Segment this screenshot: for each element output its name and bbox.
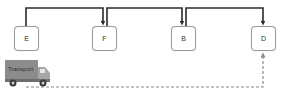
node-d-label: D bbox=[261, 35, 266, 42]
truck-icon bbox=[5, 60, 50, 87]
edge-f-to-b bbox=[107, 8, 182, 26]
edge-b-to-d bbox=[186, 8, 263, 26]
truck-label: Transport bbox=[8, 66, 33, 72]
node-f-label: F bbox=[102, 35, 106, 42]
node-d[interactable]: D bbox=[251, 26, 276, 51]
flow-diagram: E F B D Transport bbox=[0, 0, 283, 94]
node-e[interactable]: E bbox=[14, 26, 39, 51]
edge-transport-to-d bbox=[26, 55, 263, 87]
node-b-label: B bbox=[181, 35, 186, 42]
node-b[interactable]: B bbox=[171, 26, 196, 51]
connector-lines bbox=[0, 0, 283, 94]
node-e-label: E bbox=[24, 35, 29, 42]
node-f[interactable]: F bbox=[92, 26, 117, 51]
edge-e-to-f bbox=[26, 8, 103, 26]
